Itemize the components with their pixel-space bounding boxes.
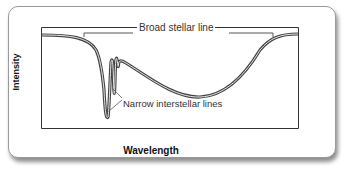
plot-frame (42, 28, 299, 129)
broad-bracket-right (229, 33, 273, 37)
y-axis-label: Intensity (11, 53, 21, 90)
broad-bracket-left (84, 33, 133, 37)
narrow-interstellar-lines-label: Narrow interstellar lines (123, 98, 222, 109)
x-axis-label: Wavelength (123, 145, 179, 156)
narrow-leader-lower (109, 100, 122, 111)
broad-stellar-line-label: Broad stellar line (137, 22, 215, 33)
